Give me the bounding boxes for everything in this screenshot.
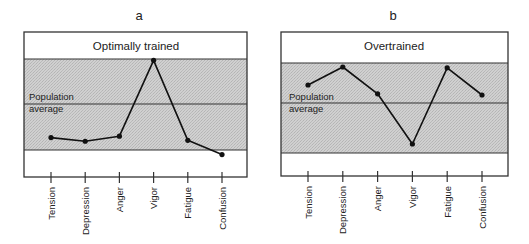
data-point-confusion [479, 92, 484, 97]
x-axis-ticks: TensionDepressionAngerVigorFatigueConfus… [303, 171, 488, 234]
population-label-line1: Population [289, 91, 334, 102]
data-point-fatigue [185, 138, 190, 143]
figure: a Optimally trained Population average T… [0, 0, 529, 244]
panel-title: Optimally trained [93, 40, 179, 52]
data-point-fatigue [445, 65, 450, 70]
data-point-vigor [151, 58, 156, 63]
x-tick-label-fatigue: Fatigue [442, 186, 453, 218]
x-tick-label-anger: Anger [372, 186, 383, 211]
data-point-anger [117, 134, 122, 139]
panel-overtrained: b Overtrained Population average Tension… [281, 8, 508, 234]
data-point-anger [375, 91, 380, 96]
x-tick-label-vigor: Vigor [407, 186, 418, 208]
x-tick-label-anger: Anger [114, 187, 125, 212]
data-point-vigor [410, 141, 415, 146]
data-point-confusion [219, 152, 224, 157]
x-tick-label-confusion: Confusion [477, 186, 488, 229]
x-tick-label-depression: Depression [80, 187, 91, 235]
x-tick-label-vigor: Vigor [148, 187, 159, 209]
panel-optimally-trained: a Optimally trained Population average T… [24, 8, 247, 235]
population-label-line2: average [289, 103, 323, 114]
x-tick-label-tension: Tension [303, 186, 314, 219]
population-label-line2: average [29, 103, 63, 114]
x-tick-label-fatigue: Fatigue [182, 187, 193, 219]
x-tick-label-depression: Depression [337, 186, 348, 234]
x-tick-label-confusion: Confusion [217, 187, 228, 230]
x-tick-label-tension: Tension [46, 187, 57, 220]
data-point-depression [83, 139, 88, 144]
population-label-line1: Population [29, 91, 74, 102]
panel-letter: b [389, 8, 396, 23]
data-point-depression [340, 64, 345, 69]
panel-title: Overtrained [364, 40, 424, 52]
x-axis-ticks: TensionDepressionAngerVigorFatigueConfus… [46, 172, 228, 235]
data-point-tension [48, 135, 53, 140]
panel-letter: a [135, 8, 143, 23]
data-point-tension [305, 82, 310, 87]
